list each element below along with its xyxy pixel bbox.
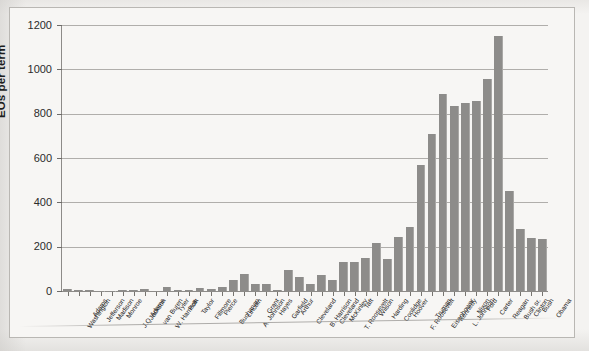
x-tick-mark bbox=[344, 292, 345, 296]
x-tick-mark bbox=[509, 292, 510, 296]
bar bbox=[317, 275, 326, 291]
bar bbox=[461, 103, 470, 291]
plot-area bbox=[62, 25, 548, 291]
x-tick-mark bbox=[322, 292, 323, 296]
y-tick-label: 800 bbox=[6, 108, 52, 119]
x-tick-mark bbox=[101, 292, 102, 296]
y-tick-label: 600 bbox=[6, 153, 52, 164]
bar bbox=[505, 191, 514, 291]
x-tick-mark bbox=[531, 292, 532, 296]
bar bbox=[63, 289, 72, 291]
x-tick-mark bbox=[443, 292, 444, 296]
x-tick-mark bbox=[145, 292, 146, 296]
x-tick-mark bbox=[333, 292, 334, 296]
bar bbox=[140, 289, 149, 291]
y-tick-label: 400 bbox=[6, 197, 52, 208]
bar bbox=[417, 165, 426, 291]
bar bbox=[439, 94, 448, 291]
bar bbox=[527, 238, 536, 291]
bar bbox=[251, 284, 260, 291]
x-tick-mark bbox=[498, 292, 499, 296]
x-tick-mark bbox=[79, 292, 80, 296]
x-tick-mark bbox=[465, 292, 466, 296]
bar bbox=[229, 280, 238, 291]
bar bbox=[174, 290, 183, 291]
x-tick-mark bbox=[410, 292, 411, 296]
x-tick-mark bbox=[299, 292, 300, 296]
bar bbox=[74, 290, 83, 291]
x-tick-mark bbox=[68, 292, 69, 296]
x-tick-mark bbox=[255, 292, 256, 296]
x-tick-mark bbox=[222, 292, 223, 296]
x-tick-mark bbox=[123, 292, 124, 296]
bar bbox=[85, 290, 94, 291]
x-tick-mark bbox=[277, 292, 278, 296]
bar bbox=[372, 243, 381, 291]
bar bbox=[383, 259, 392, 291]
bar bbox=[483, 79, 492, 291]
x-tick-mark bbox=[90, 292, 91, 296]
x-tick-mark bbox=[156, 292, 157, 296]
bar bbox=[163, 287, 172, 291]
x-tick-mark bbox=[399, 292, 400, 296]
bar bbox=[118, 290, 127, 291]
bar bbox=[262, 284, 271, 291]
x-tick-mark bbox=[200, 292, 201, 296]
x-tick-mark bbox=[244, 292, 245, 296]
x-tick-mark bbox=[377, 292, 378, 296]
bar bbox=[339, 262, 348, 291]
bar bbox=[350, 262, 359, 291]
y-tick-label: 1200 bbox=[6, 20, 52, 31]
bar bbox=[284, 270, 293, 291]
y-tick-label: 1000 bbox=[6, 64, 52, 75]
x-tick-mark bbox=[520, 292, 521, 296]
bar bbox=[295, 277, 304, 291]
x-tick-mark bbox=[476, 292, 477, 296]
x-tick-mark bbox=[178, 292, 179, 296]
x-tick-mark bbox=[134, 292, 135, 296]
x-tick-mark bbox=[266, 292, 267, 296]
bar bbox=[196, 288, 205, 291]
bar bbox=[472, 101, 481, 291]
bar bbox=[361, 258, 370, 291]
bar bbox=[494, 36, 503, 291]
bar bbox=[218, 287, 227, 291]
x-tick-mark bbox=[288, 292, 289, 296]
bar bbox=[207, 289, 216, 291]
y-axis-title: EOs per term bbox=[0, 45, 7, 118]
bar bbox=[394, 237, 403, 291]
y-tick-label: 0 bbox=[6, 286, 52, 297]
x-tick-mark bbox=[311, 292, 312, 296]
bar bbox=[240, 274, 249, 292]
bar bbox=[406, 227, 415, 291]
x-tick-mark bbox=[421, 292, 422, 296]
y-tick-mark bbox=[57, 291, 62, 292]
chart-page: EOs per term 020040060080010001200 Washi… bbox=[0, 0, 589, 351]
bar bbox=[306, 284, 315, 291]
y-tick-label: 200 bbox=[6, 241, 52, 252]
x-tick-mark bbox=[366, 292, 367, 296]
bar bbox=[273, 290, 282, 291]
x-tick-mark bbox=[487, 292, 488, 296]
bar bbox=[428, 134, 437, 291]
x-tick-mark bbox=[388, 292, 389, 296]
x-tick-mark bbox=[211, 292, 212, 296]
x-tick-mark bbox=[432, 292, 433, 296]
bar bbox=[538, 239, 547, 291]
bar bbox=[185, 290, 194, 291]
x-tick-mark bbox=[233, 292, 234, 296]
bar bbox=[450, 106, 459, 291]
x-tick-mark bbox=[454, 292, 455, 296]
bar bbox=[328, 280, 337, 291]
x-tick-mark bbox=[167, 292, 168, 296]
bar bbox=[129, 290, 138, 291]
x-tick-mark bbox=[112, 292, 113, 296]
x-tick-mark bbox=[189, 292, 190, 296]
bar bbox=[516, 229, 525, 291]
x-tick-mark bbox=[355, 292, 356, 296]
